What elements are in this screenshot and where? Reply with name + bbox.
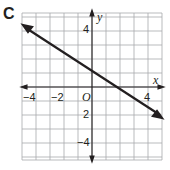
coordinate-plane: y x O −4 −2 4 4 2 −4: [0, 0, 170, 170]
x-tick-neg2: −2: [51, 91, 64, 103]
y-tick-neg2: 2: [83, 108, 89, 120]
origin-label: O: [82, 90, 91, 104]
x-axis-label: x: [152, 73, 159, 87]
y-tick-4: 4: [83, 23, 89, 35]
x-tick-neg4: −4: [23, 91, 36, 103]
axes: [21, 10, 164, 162]
y-axis-label: y: [96, 10, 103, 24]
x-tick-4: 4: [144, 91, 150, 103]
y-tick-neg4: −4: [77, 136, 90, 148]
